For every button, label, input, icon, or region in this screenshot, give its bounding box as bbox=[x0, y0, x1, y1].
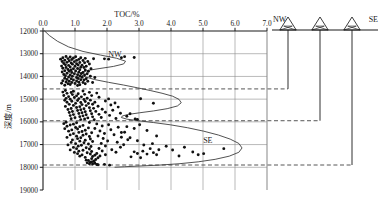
scatter-point bbox=[78, 115, 81, 118]
scatter-point bbox=[63, 59, 66, 62]
scatter-point bbox=[72, 146, 75, 149]
scatter-point bbox=[81, 103, 84, 106]
scatter-point bbox=[109, 104, 112, 107]
scatter-point bbox=[129, 112, 132, 115]
x-axis-tick-label: 5.0 bbox=[198, 19, 208, 28]
scatter-point bbox=[63, 99, 66, 102]
y-axis-tick-label: 15000 bbox=[20, 95, 39, 104]
scatter-point bbox=[80, 144, 83, 147]
scatter-point bbox=[97, 105, 100, 108]
scatter-point bbox=[93, 127, 96, 130]
scatter-point bbox=[61, 79, 64, 82]
curve-label-se: SE bbox=[203, 136, 212, 145]
scatter-point bbox=[86, 60, 89, 63]
derrick-outline bbox=[312, 17, 328, 30]
scatter-point bbox=[183, 146, 186, 149]
scatter-point bbox=[81, 111, 84, 114]
scatter-point bbox=[93, 76, 96, 79]
scatter-point bbox=[114, 102, 117, 105]
scatter-point bbox=[77, 131, 80, 134]
scatter-point bbox=[86, 161, 89, 164]
figure-canvas: 0.01.02.03.04.05.06.07.01200013000140001… bbox=[0, 0, 383, 215]
scatter-point bbox=[91, 140, 94, 143]
scatter-point bbox=[67, 76, 70, 79]
scatter-point bbox=[115, 117, 118, 120]
scatter-point bbox=[82, 90, 85, 93]
scatter-point bbox=[88, 63, 91, 66]
scatter-point bbox=[64, 74, 67, 77]
x-axis-tick-label: 6.0 bbox=[230, 19, 240, 28]
scatter-point bbox=[89, 99, 92, 102]
scatter-point bbox=[93, 101, 96, 104]
scatter-point bbox=[122, 143, 125, 146]
derrick-outline bbox=[344, 17, 360, 30]
scatter-point bbox=[68, 70, 71, 73]
y-axis-tick-label: 16000 bbox=[20, 117, 39, 126]
scatter-point bbox=[100, 142, 103, 145]
scatter-point bbox=[82, 114, 85, 117]
scatter-point bbox=[75, 121, 78, 124]
scatter-point bbox=[87, 126, 90, 129]
scatter-point bbox=[88, 91, 91, 94]
scatter-point bbox=[86, 80, 89, 83]
scatter-point bbox=[101, 108, 104, 111]
scatter-point bbox=[89, 75, 92, 78]
scatter-point bbox=[88, 121, 91, 124]
scatter-point bbox=[151, 142, 154, 145]
scatter-point bbox=[91, 81, 94, 84]
scatter-point bbox=[108, 114, 111, 117]
scatter-point bbox=[98, 113, 101, 116]
scatter-point bbox=[77, 71, 80, 74]
scatter-point bbox=[93, 118, 96, 121]
scatter-point bbox=[83, 61, 86, 64]
scatter-point bbox=[90, 145, 93, 148]
scatter-point bbox=[138, 123, 141, 126]
scatter-point bbox=[107, 123, 110, 126]
scatter-point bbox=[75, 147, 78, 150]
scatter-point bbox=[117, 126, 120, 129]
scatter-point bbox=[79, 66, 82, 69]
scatter-point bbox=[94, 110, 97, 113]
chart-top-title: TOC/% bbox=[114, 10, 140, 19]
y-axis-tick-label: 17000 bbox=[20, 140, 39, 149]
scatter-point bbox=[64, 89, 67, 92]
scatter-point bbox=[75, 135, 78, 138]
scatter-point bbox=[78, 68, 81, 71]
scatter-point bbox=[84, 100, 87, 103]
scatter-point bbox=[92, 57, 95, 60]
scatter-point bbox=[86, 72, 89, 75]
scatter-point bbox=[165, 145, 168, 148]
scatter-point bbox=[84, 82, 87, 85]
scatter-point bbox=[87, 70, 90, 73]
y-axis-tick-label: 18000 bbox=[20, 163, 39, 172]
scatter-point bbox=[103, 163, 106, 166]
scatter-point bbox=[68, 111, 71, 114]
scatter-point bbox=[70, 117, 73, 120]
scatter-point bbox=[79, 118, 82, 121]
scatter-point bbox=[89, 138, 92, 141]
scatter-point bbox=[78, 61, 81, 64]
scatter-point bbox=[88, 148, 91, 151]
scatter-point bbox=[155, 134, 158, 137]
scatter-point bbox=[66, 72, 69, 75]
scatter-point bbox=[87, 102, 90, 105]
scatter-point bbox=[149, 147, 152, 150]
scatter-point bbox=[77, 112, 80, 115]
scatter-point bbox=[61, 91, 64, 94]
scatter-point bbox=[117, 106, 120, 109]
scatter-point bbox=[71, 110, 74, 113]
scatter-point bbox=[66, 92, 69, 95]
scatter-point bbox=[90, 94, 93, 97]
scatter-point bbox=[103, 57, 106, 60]
scatter-point bbox=[115, 151, 118, 154]
figure-root: 0.01.02.03.04.05.06.07.01200013000140001… bbox=[0, 0, 383, 215]
scatter-point bbox=[101, 125, 104, 128]
scatter-point bbox=[78, 125, 81, 128]
scatter-point bbox=[83, 74, 86, 77]
scatter-point bbox=[142, 144, 145, 147]
scatter-point bbox=[71, 75, 74, 78]
scatter-point bbox=[63, 127, 66, 130]
scatter-point bbox=[66, 61, 69, 64]
scatter-point bbox=[139, 156, 142, 159]
scatter-point bbox=[78, 140, 81, 143]
